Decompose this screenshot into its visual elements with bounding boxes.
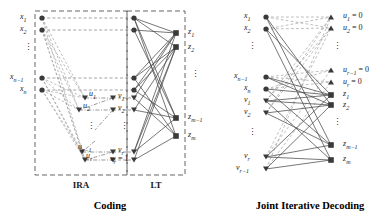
coding-z2-label: z2 bbox=[188, 43, 194, 53]
coding-v-ellipsis: ⋮ bbox=[119, 124, 129, 130]
coding-u2-label: u2 bbox=[83, 102, 90, 112]
coding-v2-label: v2 bbox=[118, 104, 125, 114]
decoding-x-ellipsis: ⋮ bbox=[247, 44, 257, 50]
coding-z1-label: z1 bbox=[188, 28, 194, 38]
lt-caption: LT bbox=[136, 180, 176, 190]
decoding-u-ellipsis: ⋮ bbox=[332, 44, 342, 50]
decoding-dashed-edges bbox=[266, 17, 331, 169]
ira-variable-to-u-edges bbox=[42, 18, 85, 160]
decoding-z-ellipsis: ⋮ bbox=[332, 120, 342, 126]
coding-x2-label: x2 bbox=[20, 25, 27, 35]
coding-u1-label: u1 bbox=[89, 90, 96, 100]
decoding-u2-label: u2 = 0 bbox=[343, 24, 363, 34]
coding-v1-label: v1 bbox=[118, 92, 125, 102]
coding-x1-label: x1 bbox=[20, 13, 27, 23]
coding-vr-eq1-label: vr = 1 bbox=[110, 155, 128, 165]
decoding-x1-label: x1 bbox=[244, 12, 251, 22]
coding-z-ellipsis: ⋮ bbox=[190, 72, 200, 78]
decoding-z1-label: z1 bbox=[343, 90, 349, 100]
coding-xn-label: xn bbox=[20, 85, 27, 95]
figure-container: x1 x2 ⋮ xn−1 xn u1 u2 ⋮ ur−1 ur v1 v2 ⋮ … bbox=[0, 0, 388, 223]
coding-title: Coding bbox=[60, 200, 160, 211]
decoding-zm-label: zm bbox=[343, 155, 350, 165]
decoding-zm-1-label: zm−1 bbox=[343, 140, 358, 150]
decoding-vr-label: vr bbox=[244, 152, 250, 162]
coding-z-nodes bbox=[173, 30, 179, 139]
decoding-z-nodes bbox=[328, 92, 334, 163]
decoding-vr-1-label: vr−1 bbox=[236, 164, 249, 174]
coding-ur-label: ur bbox=[86, 152, 92, 162]
decoding-u1-label: u1 = 0 bbox=[343, 12, 363, 22]
decoding-ur-label: ur = 0 bbox=[343, 78, 362, 88]
decoding-ur-1-label: ur−1 = 0 bbox=[343, 66, 369, 76]
decoding-xn-label: xn bbox=[244, 84, 251, 94]
lt-left-nodes bbox=[131, 15, 137, 162]
coding-zm-1-label: zm−1 bbox=[188, 113, 203, 123]
ira-caption: IRA bbox=[58, 180, 104, 190]
coding-x-nodes bbox=[39, 15, 44, 92]
lt-edges bbox=[134, 18, 176, 160]
joint-iterative-decoding-title: Joint Iterative Decoding bbox=[232, 200, 388, 211]
coding-xn-1-label: xn−1 bbox=[10, 73, 24, 83]
decoding-left-nodes bbox=[263, 14, 269, 171]
decoding-v2-label: v2 bbox=[244, 108, 251, 118]
coding-u-ellipsis: ⋮ bbox=[86, 124, 96, 130]
decoding-x2-label: x2 bbox=[244, 24, 251, 34]
decoding-xn-1-label: xn−1 bbox=[234, 72, 248, 82]
coding-zm-label: zm bbox=[188, 131, 195, 141]
decoding-v-ellipsis: ⋮ bbox=[247, 130, 257, 136]
decoding-z2-label: z2 bbox=[343, 101, 349, 111]
decoding-v1-label: v1 bbox=[244, 96, 251, 106]
ira-passthrough-edges bbox=[42, 18, 134, 90]
coding-x-ellipsis: ⋮ bbox=[23, 45, 33, 51]
